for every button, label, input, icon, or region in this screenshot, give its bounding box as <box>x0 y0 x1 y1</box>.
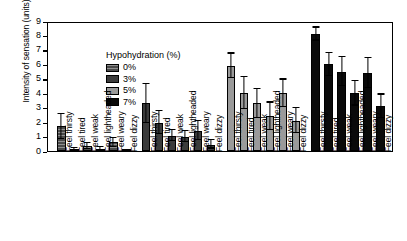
error-bar-cap <box>312 39 319 40</box>
x-axis-label: Feel dizzy <box>383 115 393 152</box>
error-bar <box>282 80 283 107</box>
error-bar-cap <box>227 77 234 78</box>
x-axis-label: Feel weary <box>116 111 126 152</box>
legend-item-3pct[interactable]: 3% <box>106 74 181 85</box>
x-axis-label: Feel thirsty <box>318 112 328 152</box>
error-bar <box>61 114 62 139</box>
y-tick-label: 9 <box>36 16 41 27</box>
x-axis-label: Feel weary <box>201 111 211 152</box>
error-bar <box>243 77 244 109</box>
legend-item-7pct[interactable]: 7% <box>106 97 181 108</box>
error-bar-cap <box>227 52 234 53</box>
y-tick-label: 7 <box>36 44 41 55</box>
y-tick-label: 3 <box>36 102 41 113</box>
y-axis-title: Intensity of sensation (units) <box>21 0 31 121</box>
y-tick-label: 8 <box>36 30 41 41</box>
legend-swatch-icon <box>106 64 119 72</box>
error-bar-cap <box>338 56 345 57</box>
x-axis-label: Feel weak <box>175 114 185 152</box>
y-tick-label: 6 <box>36 59 41 70</box>
error-bar-cap <box>240 76 247 77</box>
error-bar <box>380 95 381 118</box>
error-bar <box>328 53 329 76</box>
legend-item-label: 0% <box>123 62 136 73</box>
error-bar-cap <box>377 93 384 94</box>
legend-title: Hypohydration (%) <box>106 50 181 60</box>
error-bar-cap <box>364 87 371 88</box>
legend-item-label: 3% <box>123 74 136 85</box>
y-tick-label: 1 <box>36 131 41 142</box>
y-tick-label: 0 <box>36 146 41 157</box>
y-tick-label: 5 <box>36 73 41 84</box>
error-bar <box>354 81 355 106</box>
error-bar <box>367 58 368 88</box>
error-bar-cap <box>292 107 299 108</box>
error-bar-cap <box>325 52 332 53</box>
bar-chart: Intensity of sensation (units) 012345678… <box>0 0 407 241</box>
legend-items: 0%3%5%7% <box>106 62 181 108</box>
x-axis-label: Feel weary <box>370 111 380 152</box>
x-axis-label: Feel lightheaded <box>357 91 367 152</box>
x-axis-label: Feel weak <box>259 114 269 152</box>
error-bar-cap <box>253 88 260 89</box>
x-axis-label: Feel dizzy <box>298 115 308 152</box>
y-tick-label: 2 <box>36 117 41 128</box>
x-axis-label: Feel tired <box>162 118 172 152</box>
x-axis-label: Feel weary <box>285 111 295 152</box>
legend-item-label: 5% <box>123 85 136 96</box>
x-axis-label: Feel thirsty <box>233 112 243 152</box>
legend: Hypohydration (%) 0%3%5%7% <box>106 50 181 108</box>
legend-swatch-icon <box>106 75 119 83</box>
error-bar-cap <box>338 85 345 86</box>
x-axis-label: Feel lightheaded <box>188 91 198 152</box>
x-axis-label: Feel tired <box>246 118 256 152</box>
x-axis-label: Feel thirsty <box>64 112 74 152</box>
error-bar-cap <box>279 78 286 79</box>
x-axis-label: Feel dizzy <box>129 115 139 152</box>
x-axis-label: Feel tired <box>331 118 341 152</box>
error-bar <box>295 108 296 133</box>
x-axis-label: Feel dizzy <box>214 115 224 152</box>
x-axis-label: Feel thirsty <box>149 112 159 152</box>
x-axis-label: Feel tired <box>77 118 87 152</box>
error-bar-cap <box>240 108 247 109</box>
x-axis-label: Feel weak <box>90 114 100 152</box>
error-bar-cap <box>325 75 332 76</box>
y-tick-label: 4 <box>36 88 41 99</box>
error-bar <box>341 57 342 86</box>
x-axis-label: Feel weak <box>344 114 354 152</box>
error-bar <box>269 103 270 130</box>
error-bar-cap <box>351 80 358 81</box>
x-axis-label: Feel lightheaded <box>272 91 282 152</box>
x-axis-label: Feel lightheaded <box>103 91 113 152</box>
legend-item-label: 7% <box>123 97 136 108</box>
error-bar-cap <box>312 26 319 27</box>
legend-item-5pct[interactable]: 5% <box>106 85 181 96</box>
x-axis-labels: Feel thirstyFeel tiredFeel weakFeel ligh… <box>47 152 393 238</box>
error-bar <box>230 54 231 79</box>
error-bar <box>256 89 257 118</box>
error-bar-cap <box>364 57 371 58</box>
legend-item-0pct[interactable]: 0% <box>106 62 181 73</box>
